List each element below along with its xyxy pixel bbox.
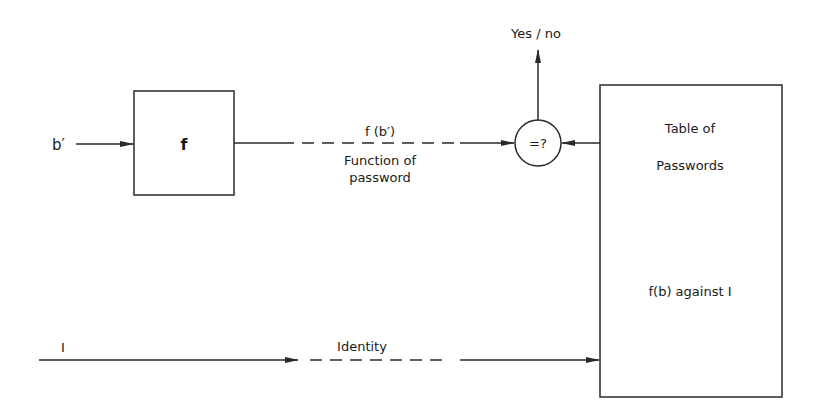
identity-label: Identity — [337, 339, 387, 354]
input-identity-label: I — [61, 340, 65, 355]
input-password-label: b′ — [52, 136, 66, 154]
password-check-diagram: b′ f f (b′) Function of password =? Yes … — [0, 0, 813, 417]
table-content: f(b) against I — [649, 284, 732, 299]
comparator-label: =? — [529, 136, 547, 151]
table-title-line1: Table of — [664, 121, 716, 136]
fb-desc-line2: password — [349, 170, 411, 185]
function-box-label: f — [181, 135, 189, 154]
fb-label: f (b′) — [365, 124, 395, 139]
output-label: Yes / no — [510, 26, 561, 41]
fb-desc-line1: Function of — [344, 153, 416, 168]
table-title-line2: Passwords — [656, 158, 724, 173]
